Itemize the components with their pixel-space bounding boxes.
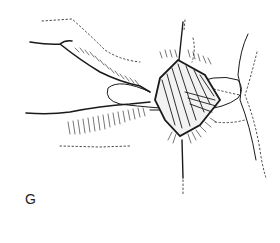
surgical-illustration — [0, 0, 280, 243]
upper-finger — [30, 41, 150, 92]
body-contour — [238, 34, 256, 160]
lower-finger — [26, 102, 150, 114]
dotted-outline — [42, 19, 266, 195]
panel-label: G — [25, 191, 36, 207]
incision — [155, 60, 220, 136]
figure: G — [0, 0, 280, 243]
